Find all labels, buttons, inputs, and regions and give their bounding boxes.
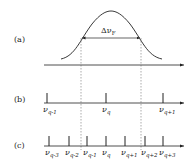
mode-label: νq-3 — [45, 148, 59, 159]
mode-label: νq-2 — [65, 148, 79, 159]
panel-b-label: (b) — [14, 95, 25, 104]
mode-comb-c: νq-3νq-2νq-1νqνq+1νq+2νq+3 — [45, 136, 176, 159]
mode-label: νq+3 — [159, 148, 176, 159]
mode-label: νq — [102, 148, 111, 159]
mode-label: νq — [102, 105, 111, 116]
panel-a-label: (a) — [14, 35, 25, 44]
mode-label: νq+1 — [121, 148, 138, 159]
panel-c-label: (c) — [14, 141, 25, 150]
diagram-canvas: (a) ΔνF (b) νq-1νqνq+1 (c) νq-3νq-2νq-1ν… — [0, 0, 195, 168]
mode-comb-b: νq-1νqνq+1 — [43, 93, 176, 116]
panel-b: (b) νq-1νqνq+1 — [14, 93, 184, 116]
bandwidth-label: ΔνF — [101, 26, 116, 36]
mode-label: νq+2 — [141, 148, 158, 159]
panel-c: (c) νq-3νq-2νq-1νqνq+1νq+2νq+3 — [14, 136, 184, 159]
mode-label: νq-1 — [43, 105, 57, 116]
mode-label: νq-1 — [83, 148, 97, 159]
mode-label: νq+1 — [159, 105, 176, 116]
panel-a: (a) ΔνF — [14, 11, 184, 65]
